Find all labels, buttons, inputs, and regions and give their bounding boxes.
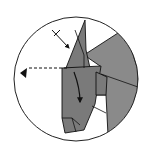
crease-line — [92, 106, 106, 113]
view-eye-icon — [20, 68, 27, 78]
front-column — [62, 66, 101, 133]
diagram-canvas — [0, 0, 147, 157]
tall-point — [66, 20, 90, 68]
push-arrow-icon — [52, 30, 69, 48]
origami-diagram — [0, 0, 147, 157]
paper-layers — [62, 20, 138, 135]
